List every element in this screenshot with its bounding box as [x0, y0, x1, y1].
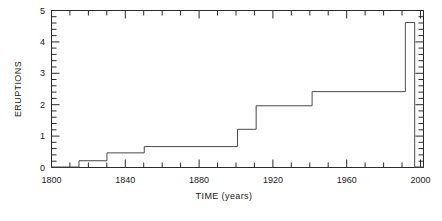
y-tick-label-3: 3 [40, 68, 45, 78]
x-axis-title: TIME (years) [196, 191, 253, 201]
y-tick-label-5: 5 [40, 6, 45, 16]
chart-background [0, 0, 442, 221]
y-tick-label-4: 4 [40, 37, 45, 47]
x-tick-label-1800: 1800 [41, 175, 61, 185]
y-tick-label-1: 1 [40, 131, 45, 141]
y-axis-title: ERUPTIONS [13, 61, 23, 117]
eruptions-vs-time-chart: 0 1 2 3 4 5 1800 1840 1880 1920 1960 200… [0, 0, 442, 221]
x-tick-label-1960: 1960 [337, 175, 357, 185]
y-tick-label-0: 0 [40, 163, 45, 173]
x-tick-label-1920: 1920 [263, 175, 283, 185]
x-tick-label-2000: 2000 [410, 175, 430, 185]
x-tick-label-1880: 1880 [189, 175, 209, 185]
y-tick-label-2: 2 [40, 100, 45, 110]
x-tick-label-1840: 1840 [115, 175, 135, 185]
